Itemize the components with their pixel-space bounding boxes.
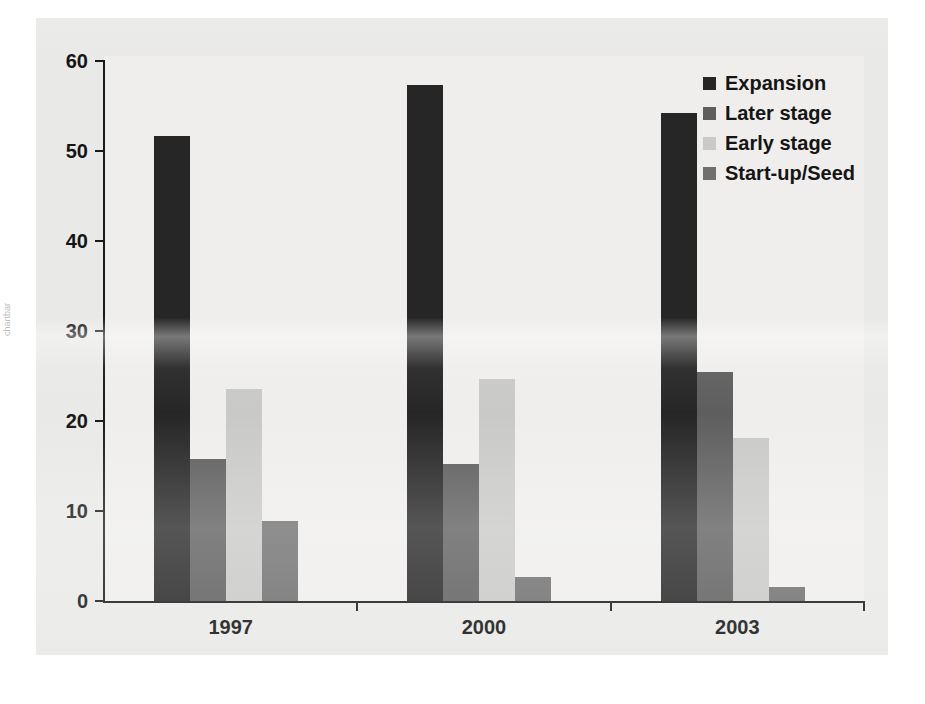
bar-expansion-2000 [407,85,443,601]
x-tick-label-1997: 1997 [171,617,291,637]
bar-start-up-seed-2000 [515,577,551,601]
legend-label: Expansion [725,73,826,93]
legend-swatch-icon [703,77,716,90]
legend-label: Early stage [725,133,832,153]
legend-item-start-up-seed[interactable]: Start-up/Seed [703,158,878,188]
legend-label: Later stage [725,103,832,123]
bar-start-up-seed-2003 [769,587,805,601]
bar-start-up-seed-1997 [262,521,298,601]
bar-later-stage-2003 [697,372,733,601]
x-tick-label-2000: 2000 [424,617,544,637]
chart-legend: ExpansionLater stageEarly stageStart-up/… [703,68,878,188]
legend-item-expansion[interactable]: Expansion [703,68,878,98]
bar-expansion-2003 [661,113,697,601]
x-tick-1997 [356,601,358,611]
bar-early-stage-2003 [733,438,769,601]
bar-expansion-1997 [154,136,190,601]
legend-swatch-icon [703,137,716,150]
x-axis-line [103,601,864,603]
legend-swatch-icon [703,107,716,120]
legend-swatch-icon [703,167,716,180]
x-tick-2003 [863,601,865,611]
bar-later-stage-1997 [190,459,226,601]
legend-item-later-stage[interactable]: Later stage [703,98,878,128]
legend-item-early-stage[interactable]: Early stage [703,128,878,158]
legend-label: Start-up/Seed [725,163,855,183]
bar-early-stage-1997 [226,389,262,601]
x-tick-label-2003: 2003 [677,617,797,637]
bar-later-stage-2000 [443,464,479,601]
x-tick-2000 [610,601,612,611]
chart-figure: chartbar 0102030405060 199720002003 Expa… [0,0,925,704]
bar-early-stage-2000 [479,379,515,601]
